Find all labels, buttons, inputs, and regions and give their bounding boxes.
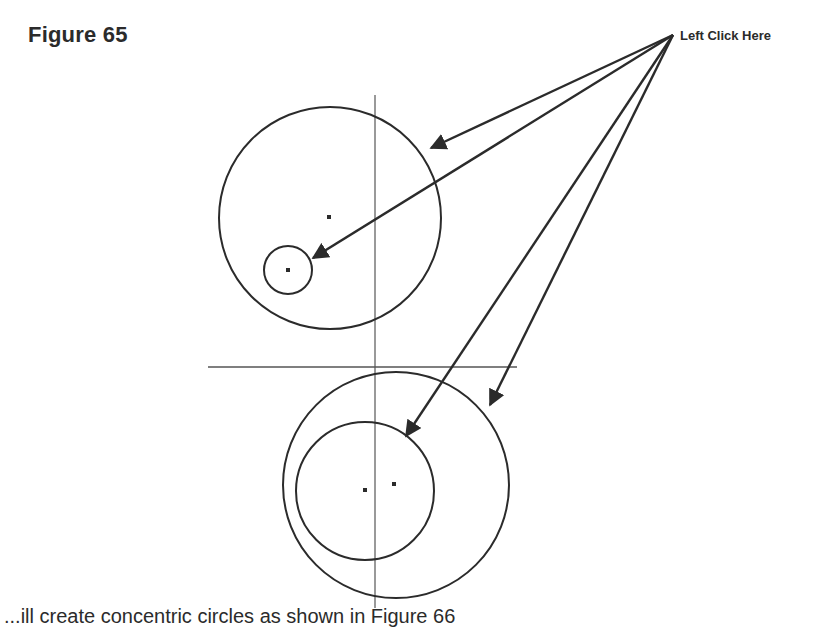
upper-small-circle-center-dot (286, 268, 290, 272)
lower-inner-circle-center-dot (363, 488, 367, 492)
arrow-to-lower-inner-circle (406, 35, 673, 436)
upper-large-circle-center-dot (327, 215, 331, 219)
caption-text-clipped: ...ill create concentric circles as show… (4, 606, 455, 626)
lower-outer-circle-center-dot (392, 482, 396, 486)
